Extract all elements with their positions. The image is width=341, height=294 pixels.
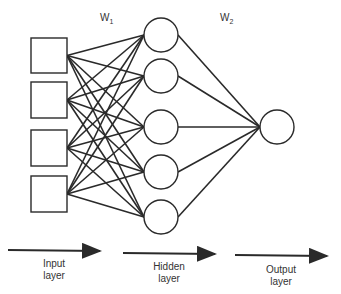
output-layer-label: Outputlayer xyxy=(251,264,311,288)
input-node xyxy=(31,82,67,118)
edge-w2 xyxy=(178,35,260,127)
hidden-layer-label: Hiddenlayer xyxy=(139,261,199,285)
output-arrow xyxy=(235,255,327,256)
edge-w1 xyxy=(67,76,144,194)
weight-label-w2: W2 xyxy=(220,12,233,25)
hidden-node xyxy=(144,18,178,52)
network-diagram xyxy=(0,0,341,294)
input-node xyxy=(31,130,67,166)
nodes xyxy=(31,18,294,234)
input-node xyxy=(31,176,67,212)
output-node xyxy=(260,110,294,144)
edge-w2 xyxy=(178,76,260,127)
weight-label-w1: W1 xyxy=(100,12,113,25)
layer-arrows xyxy=(8,250,327,256)
input-node xyxy=(31,38,67,73)
hidden-node xyxy=(144,110,178,144)
input-layer-label: Inputlayer xyxy=(24,258,84,282)
edge-w2 xyxy=(178,127,260,217)
hidden-node xyxy=(144,200,178,234)
edge-w1 xyxy=(67,194,144,217)
hidden-node xyxy=(144,59,178,93)
edge-w2 xyxy=(178,127,260,172)
hidden-arrow xyxy=(123,253,215,254)
input-arrow xyxy=(8,250,100,251)
hidden-node xyxy=(144,155,178,189)
